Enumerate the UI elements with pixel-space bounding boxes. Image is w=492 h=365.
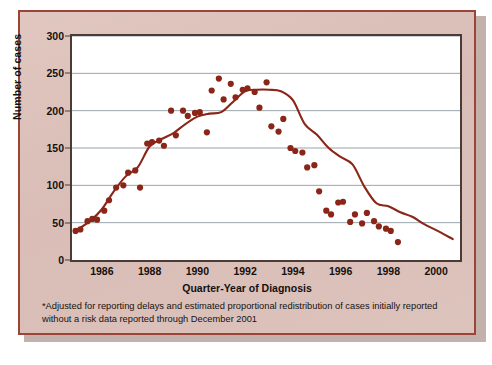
figure-card: Number of cases 050100150200250300198619… bbox=[18, 10, 476, 335]
data-point bbox=[132, 167, 138, 173]
x-axis-tick-label: 1988 bbox=[138, 265, 161, 277]
data-point bbox=[340, 199, 346, 205]
data-point bbox=[228, 81, 234, 87]
y-axis-tick-mark bbox=[65, 222, 70, 223]
chart-canvas bbox=[72, 36, 460, 260]
data-point bbox=[328, 211, 334, 217]
data-point bbox=[94, 217, 100, 223]
data-point bbox=[149, 139, 155, 145]
y-axis-tick-mark bbox=[65, 185, 70, 186]
data-point bbox=[161, 143, 167, 149]
y-axis-tick-mark bbox=[65, 73, 70, 74]
data-point bbox=[316, 188, 322, 194]
data-point bbox=[359, 220, 365, 226]
trend-line bbox=[76, 90, 453, 240]
data-point bbox=[371, 218, 377, 224]
plot-area bbox=[70, 34, 462, 262]
x-axis-tick-label: 1986 bbox=[90, 265, 113, 277]
y-axis-tick-label: 150 bbox=[26, 142, 64, 154]
figure-footnote: *Adjusted for reporting delays and estim… bbox=[42, 300, 460, 326]
figure-root: Number of cases 050100150200250300198619… bbox=[0, 0, 492, 365]
data-point bbox=[185, 113, 191, 119]
y-axis-tick-label: 250 bbox=[26, 67, 64, 79]
data-point bbox=[256, 105, 262, 111]
x-axis-tick-label: 1990 bbox=[186, 265, 209, 277]
data-point bbox=[216, 75, 222, 81]
y-axis-tick-mark bbox=[65, 148, 70, 149]
y-axis-title: Number of cases bbox=[11, 34, 23, 120]
data-point bbox=[232, 94, 238, 100]
data-point bbox=[352, 211, 358, 217]
data-point bbox=[137, 184, 143, 190]
y-axis-tick-mark bbox=[65, 36, 70, 37]
y-axis-tick-label: 100 bbox=[26, 179, 64, 191]
data-point bbox=[120, 182, 126, 188]
x-axis-tick-label: 1996 bbox=[329, 265, 352, 277]
data-point bbox=[244, 85, 250, 91]
plot-inner bbox=[72, 36, 460, 260]
data-point bbox=[113, 184, 119, 190]
x-axis-tick-label: 1994 bbox=[281, 265, 304, 277]
data-point bbox=[101, 208, 107, 214]
data-point bbox=[125, 170, 131, 176]
data-point bbox=[252, 89, 258, 95]
x-axis-title: Quarter-Year of Diagnosis bbox=[20, 282, 474, 294]
y-axis-tick-mark bbox=[65, 260, 70, 261]
y-axis-tick-mark bbox=[65, 110, 70, 111]
x-axis-tick-label: 1992 bbox=[233, 265, 256, 277]
data-point bbox=[311, 162, 317, 168]
data-point bbox=[264, 79, 270, 85]
data-point bbox=[292, 148, 298, 154]
data-point bbox=[106, 197, 112, 203]
data-point bbox=[347, 219, 353, 225]
data-point bbox=[204, 129, 210, 135]
data-point bbox=[275, 128, 281, 134]
data-point bbox=[221, 96, 227, 102]
data-point bbox=[180, 108, 186, 114]
data-point bbox=[388, 228, 394, 234]
data-point bbox=[304, 164, 310, 170]
data-point bbox=[395, 239, 401, 245]
data-point bbox=[197, 109, 203, 115]
data-point bbox=[173, 132, 179, 138]
y-axis-tick-label: 200 bbox=[26, 105, 64, 117]
y-axis-tick-label: 0 bbox=[26, 254, 64, 266]
x-axis-tick-label: 2000 bbox=[424, 265, 447, 277]
data-point bbox=[77, 226, 83, 232]
x-axis-tick-label: 1998 bbox=[377, 265, 400, 277]
y-axis-tick-label: 50 bbox=[26, 217, 64, 229]
y-axis-tick-label: 300 bbox=[26, 30, 64, 42]
data-point bbox=[156, 137, 162, 143]
data-point bbox=[268, 123, 274, 129]
data-point bbox=[168, 108, 174, 114]
data-point bbox=[364, 210, 370, 216]
data-point bbox=[299, 149, 305, 155]
data-point bbox=[280, 116, 286, 122]
data-point bbox=[376, 223, 382, 229]
data-point bbox=[209, 87, 215, 93]
